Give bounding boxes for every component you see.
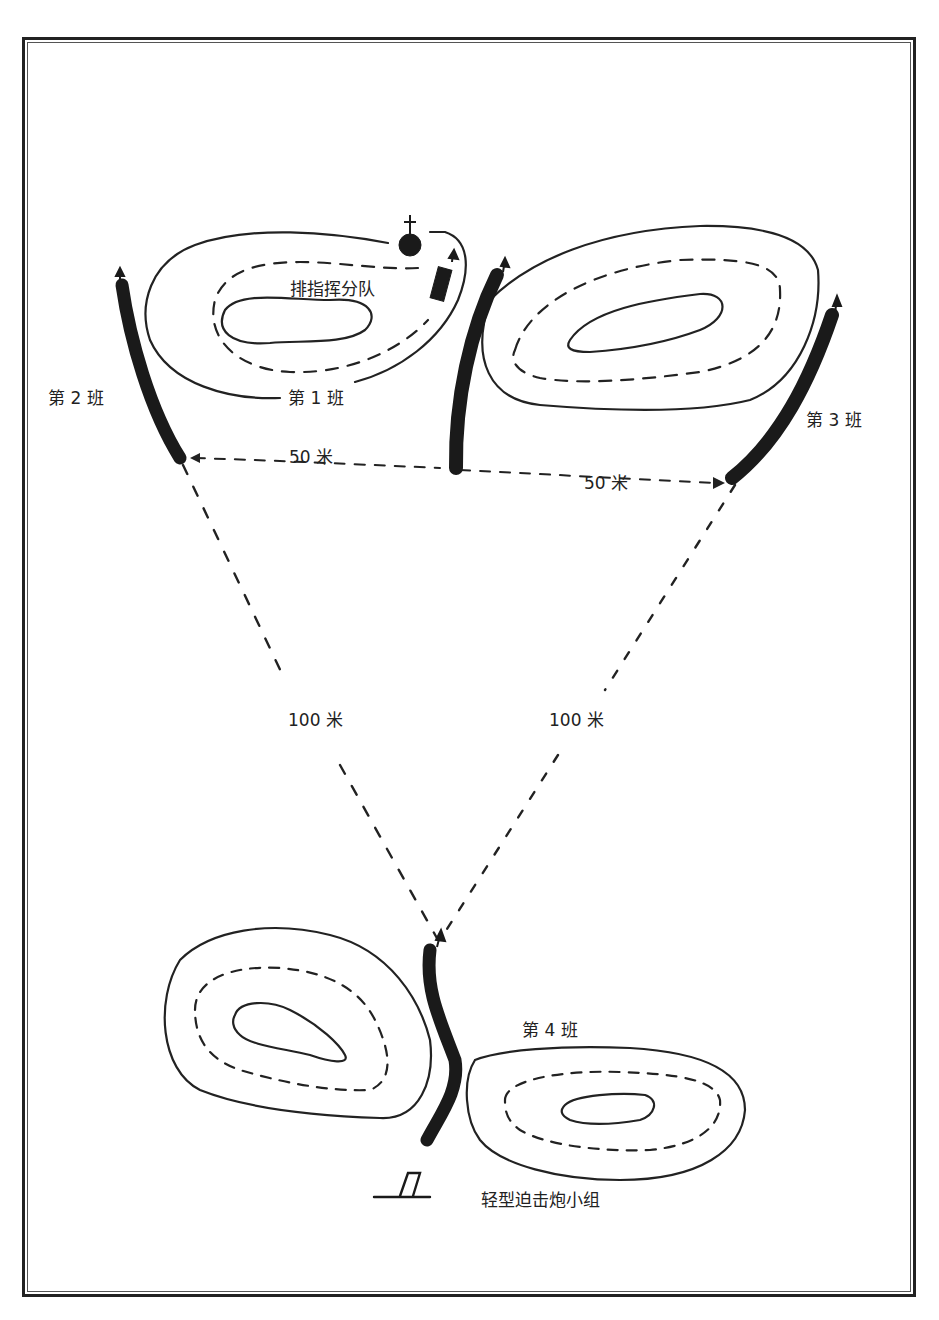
label-distance-right-100m: 100 米 — [549, 706, 604, 731]
squad-1-position — [456, 275, 497, 468]
label-squad-4: 第 4 班 — [522, 1016, 578, 1041]
hill-3-outer-contour — [165, 928, 431, 1118]
hill-1-inner-contour — [222, 298, 372, 344]
hill-3-mid-contour — [195, 968, 388, 1091]
label-distance-left-100m: 100 米 — [288, 706, 343, 731]
label-squad-1: 第 1 班 — [288, 384, 344, 409]
label-squad-2: 第 2 班 — [48, 384, 104, 409]
arrowhead-left-50m — [190, 453, 200, 463]
label-mortar-team: 轻型迫击炮小组 — [481, 1186, 600, 1211]
hq-unit-arrow-icon — [449, 250, 458, 262]
label-distance-left-50m: 50 米 — [289, 443, 333, 468]
diagram-canvas — [0, 0, 939, 1320]
mortar-icon — [374, 1173, 430, 1197]
hill-3-inner-contour — [233, 1003, 346, 1061]
distance-line-squad2-squad4 — [183, 465, 438, 940]
hill-4-inner-contour — [562, 1094, 654, 1124]
platoon-leader-icon — [399, 234, 421, 256]
hill-4-outer-contour — [467, 1047, 745, 1180]
label-squad-3: 第 3 班 — [806, 406, 862, 431]
squad-1-arrow-icon — [501, 258, 509, 272]
hill-2-mid-contour — [513, 260, 780, 382]
squad-3-position — [732, 315, 832, 478]
hill-1-outer-contour — [146, 232, 466, 398]
hill-2-outer-contour — [482, 226, 818, 410]
hill-4-mid-contour — [505, 1072, 720, 1151]
squad-2-position — [122, 285, 180, 458]
label-hq-section: 排指挥分队 — [290, 275, 375, 300]
platoon-leader-flag-icon — [404, 215, 416, 234]
arrowhead-right-50m — [713, 477, 725, 489]
label-distance-right-50m: 50 米 — [584, 469, 628, 494]
squad-4-arrow-icon — [436, 930, 445, 947]
hill-2-inner-contour — [568, 294, 722, 352]
hq-unit-icon — [430, 267, 452, 302]
